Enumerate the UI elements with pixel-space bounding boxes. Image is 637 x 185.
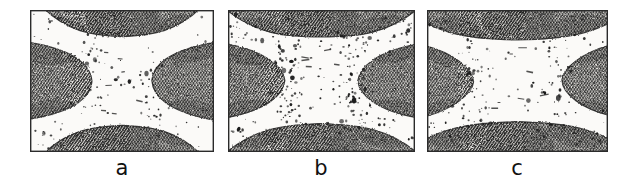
panel-image-a: [30, 10, 214, 152]
figure-panel-b: [228, 10, 415, 152]
panel-image-c: [427, 10, 608, 152]
figure-panel-c: [427, 10, 608, 152]
panel-image-b: [228, 10, 415, 152]
figure-panel-a: [30, 10, 214, 152]
figure-root: abc: [0, 0, 637, 185]
panel-label-b: b: [296, 158, 346, 179]
panel-label-a: a: [97, 158, 147, 179]
panel-label-c: c: [492, 158, 542, 179]
